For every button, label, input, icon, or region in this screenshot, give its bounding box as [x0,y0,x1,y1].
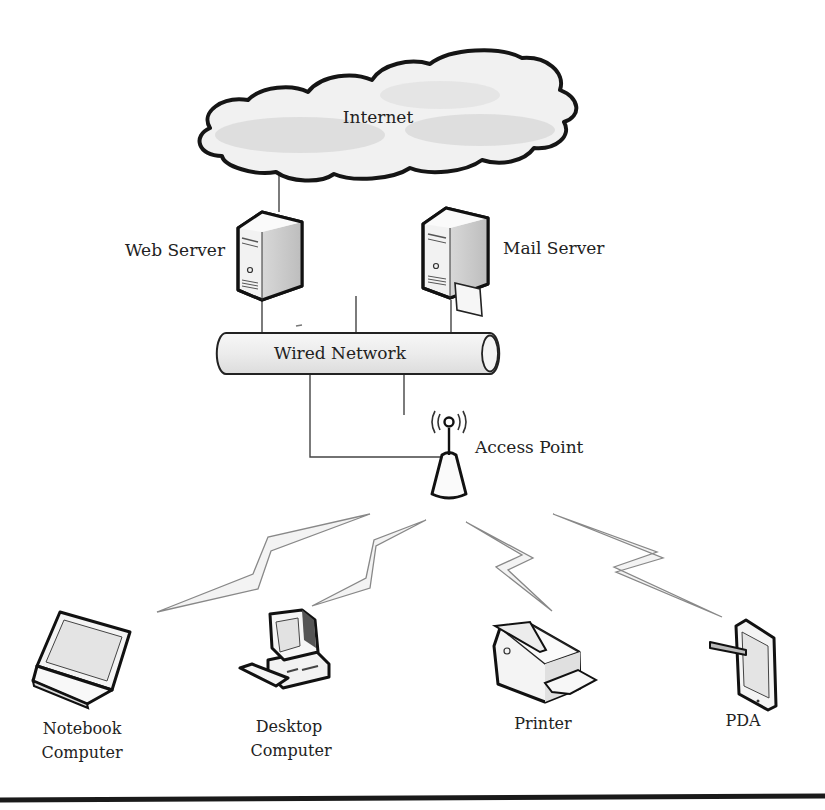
envelope-icon [455,283,482,316]
notebook-label-line1: Notebook [43,719,122,738]
printer-icon [494,622,596,702]
internet-label: Internet [343,107,414,127]
notebook-label-line2: Computer [41,743,122,762]
web-server-label: Web Server [125,240,226,260]
cloud-shade-right [405,114,555,146]
mail-server-icon [423,208,488,316]
wired-network-label: Wired Network [274,343,407,363]
desktop-computer-node[interactable]: Desktop Computer [240,610,332,760]
wire-dash-mark [296,325,302,326]
desktop-label-line1: Desktop [256,717,323,736]
wired-connections [262,172,451,457]
internet-node[interactable]: Internet [200,50,577,180]
server-tower-icon [238,212,302,300]
pda-label: PDA [725,711,761,730]
mail-server-label: Mail Server [503,238,605,258]
bottom-rule [0,796,825,800]
desktop-label-line2: Computer [250,741,331,760]
printer-label: Printer [514,714,572,733]
printer-node[interactable]: Printer [494,622,596,733]
wireless-links [157,514,722,617]
mail-server-node[interactable]: Mail Server [423,208,605,316]
tablet-stylus-icon [710,620,776,710]
wireless-link-pda [553,514,722,617]
wired-network-node[interactable]: Wired Network [217,333,499,374]
notebook-computer-node[interactable]: Notebook Computer [33,612,130,762]
laptop-icon [33,612,130,708]
cloud-shade-top [380,81,500,109]
wireless-link-printer [466,522,552,611]
pda-node[interactable]: PDA [710,620,776,730]
network-diagram: Internet Web Server [0,0,825,810]
wire-network-access-point [310,374,445,457]
wireless-antenna-icon [432,411,466,498]
wireless-link-desktop [312,520,426,606]
desktop-computer-icon [240,610,329,688]
access-point-label: Access Point [474,437,584,457]
access-point-node[interactable]: Access Point [432,411,584,498]
web-server-node[interactable]: Web Server [125,212,302,300]
